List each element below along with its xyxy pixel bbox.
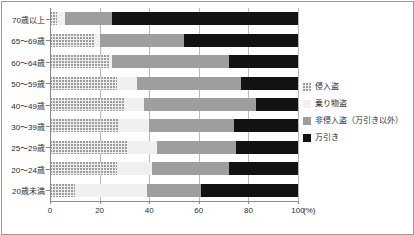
legend-item[interactable]: 万引き — [303, 131, 411, 144]
bar-segment — [124, 98, 144, 111]
bar-segment — [147, 184, 202, 197]
bar-segment — [50, 12, 57, 25]
bar-segment — [229, 55, 298, 68]
legend-swatch-icon — [303, 83, 311, 91]
legend-label: 非侵入盗（万引き以外） — [315, 117, 403, 125]
y-axis-tick — [46, 190, 50, 191]
bar-row — [50, 55, 298, 68]
bar-segment — [50, 34, 95, 47]
bar-segment — [65, 12, 112, 25]
y-axis-label: 40〜49歳 — [1, 100, 45, 111]
bar-segment — [144, 98, 256, 111]
legend-swatch-icon — [303, 117, 311, 125]
legend-swatch-icon — [303, 100, 311, 108]
y-axis-tick — [46, 40, 50, 41]
bar-segment — [119, 119, 149, 132]
bar-row — [50, 34, 298, 47]
bar-segment — [50, 162, 117, 175]
bar-segment — [157, 141, 236, 154]
x-axis-tick — [248, 201, 249, 204]
y-axis-label: 60〜64歳 — [1, 57, 45, 68]
x-axis-label: 0 — [48, 206, 52, 215]
y-axis-label: 50〜59歳 — [1, 78, 45, 89]
bar-row — [50, 119, 298, 132]
x-axis-label: 60 — [194, 206, 203, 215]
bar-row — [50, 141, 298, 154]
y-axis-label: 70歳以上 — [1, 14, 45, 25]
bar-segment — [201, 184, 298, 197]
bar-segment — [57, 12, 64, 25]
legend-label: 乗り物盗 — [315, 100, 347, 108]
x-axis-label: 80 — [244, 206, 253, 215]
bar-segment — [256, 98, 298, 111]
legend-item[interactable]: 非侵入盗（万引き以外） — [303, 114, 411, 127]
chart-legend: 侵入盗乗り物盗非侵入盗（万引き以外）万引き — [303, 80, 411, 148]
bar-row — [50, 12, 298, 25]
bar-segment — [75, 184, 147, 197]
bar-segment — [112, 55, 229, 68]
bar-segment — [117, 77, 137, 90]
y-axis-tick — [46, 105, 50, 106]
x-axis-tick — [199, 201, 200, 204]
bar-segment — [149, 119, 233, 132]
x-axis-line — [50, 201, 298, 202]
bar-segment — [137, 77, 241, 90]
bar-segment — [152, 162, 229, 175]
y-axis-tick — [46, 147, 50, 148]
bar-segment — [112, 12, 298, 25]
gridline-100 — [298, 8, 299, 201]
y-axis-label: 25〜29歳 — [1, 142, 45, 153]
y-axis-label: 20〜24歳 — [1, 164, 45, 175]
y-axis-tick — [46, 169, 50, 170]
x-axis-tick — [50, 201, 51, 204]
x-axis-tick — [149, 201, 150, 204]
bar-segment — [184, 34, 298, 47]
y-axis-tick — [46, 83, 50, 84]
y-axis-tick — [46, 19, 50, 20]
bar-segment — [127, 141, 157, 154]
y-axis-label: 65〜69歳 — [1, 35, 45, 46]
bar-segment — [117, 162, 152, 175]
x-axis-tick — [100, 201, 101, 204]
bar-segment — [50, 141, 127, 154]
x-axis-label: 20 — [95, 206, 104, 215]
plot-area — [50, 8, 298, 201]
bar-segment — [50, 55, 110, 68]
bar-segment — [50, 184, 75, 197]
legend-item[interactable]: 乗り物盗 — [303, 97, 411, 110]
bar-segment — [50, 98, 124, 111]
bar-row — [50, 98, 298, 111]
x-axis-tick — [298, 201, 299, 204]
bar-segment — [229, 162, 298, 175]
bar-segment — [50, 77, 117, 90]
legend-swatch-icon — [303, 134, 311, 142]
y-axis-category-labels: 70歳以上65〜69歳60〜64歳50〜59歳40〜49歳30〜39歳25〜29… — [0, 8, 45, 201]
legend-label: 万引き — [315, 134, 339, 142]
y-axis-label: 30〜39歳 — [1, 121, 45, 132]
bar-segment — [50, 119, 119, 132]
legend-item[interactable]: 侵入盗 — [303, 80, 411, 93]
bar-segment — [241, 77, 298, 90]
legend-label: 侵入盗 — [315, 83, 339, 91]
bar-row — [50, 162, 298, 175]
bar-segment — [100, 34, 184, 47]
bar-row — [50, 184, 298, 197]
y-axis-tick — [46, 62, 50, 63]
bar-row — [50, 77, 298, 90]
bar-segment — [234, 119, 298, 132]
y-axis-line — [50, 8, 51, 201]
y-axis-tick — [46, 126, 50, 127]
y-axis-label: 20歳未満 — [1, 185, 45, 196]
bar-segment — [236, 141, 298, 154]
x-axis-unit-label: (%) — [303, 206, 315, 215]
x-axis-label: 40 — [145, 206, 154, 215]
